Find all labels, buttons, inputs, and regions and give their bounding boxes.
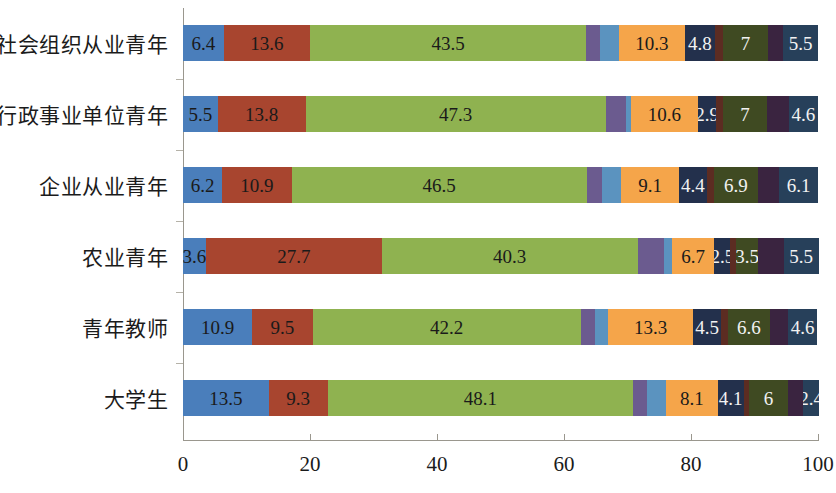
bar-segment: 4.6 [789,96,818,132]
bar-segment-value: 6.9 [724,176,748,195]
bar-segment-value: 6.2 [191,176,215,195]
bar-segment-value: 5.5 [789,247,813,266]
category-label: 企业从业青年 [39,170,168,200]
x-axis-tick [564,434,565,441]
bar-segment: 6.7 [672,238,715,274]
bar-segment [581,309,596,345]
bar-segment: 6.2 [183,167,222,203]
y-axis-tick [176,79,183,80]
y-axis-tick [176,292,183,293]
bar-segment [606,96,626,132]
bar-segment-value: 43.5 [431,34,464,53]
x-axis-tick-label: 40 [427,452,448,477]
bar-segment-value: 4.1 [719,389,743,408]
bar-segment [770,309,788,345]
x-axis-tick [437,434,438,441]
category-label: 社会组织从业青年 [0,28,168,58]
bar-segment: 9.1 [621,167,679,203]
bar-segment: 9.5 [252,309,312,345]
bar-segment-value: 40.3 [493,247,526,266]
bar-segment-value: 13.5 [209,389,242,408]
bar-segment [664,238,672,274]
bar-segment-value: 3.6 [183,247,206,266]
bar-segment: 10.9 [222,167,291,203]
plot-area: 6.413.643.510.34.875.55.513.847.310.62.9… [183,8,818,440]
bar-segment-value: 6.4 [191,34,215,53]
bar-segment-value: 3.5 [736,247,758,266]
bar-segment: 2.5 [714,238,730,274]
bar-segment: 6 [749,380,787,416]
bar-segment: 9.3 [269,380,328,416]
bar-segment: 5.5 [784,238,819,274]
bar-segment: 2.9 [698,96,716,132]
x-axis-tick-labels: 020406080100 [0,452,836,482]
x-axis-tick [183,434,184,441]
bar-segment: 6.6 [728,309,770,345]
bar-segment-value: 7 [741,34,751,53]
bar-segment-value: 46.5 [423,176,456,195]
bar-segment-value: 6 [764,389,774,408]
bar-segment-value: 47.3 [439,105,472,124]
bar-segment-value: 5.5 [189,105,213,124]
bar-segment [633,380,647,416]
bar-row: 5.513.847.310.62.974.6 [183,96,818,132]
bar-segment-value: 6.6 [737,318,761,337]
bar-segment [758,238,783,274]
bar-segment [707,167,714,203]
x-axis-tick-label: 80 [681,452,702,477]
bar-segment [767,96,789,132]
bar-segment-value: 2.9 [698,105,716,124]
bar-segment: 13.6 [224,25,310,61]
bar-segment: 43.5 [310,25,586,61]
stacked-bar-chart: 社会组织从业青年行政事业单位青年企业从业青年农业青年青年教师大学生 6.413.… [0,0,836,493]
bar-segment: 10.3 [619,25,684,61]
bar-segment [586,25,600,61]
bar-segment: 5.5 [183,96,218,132]
bar-segment-value: 10.9 [201,318,234,337]
x-axis-tick [818,434,819,441]
category-axis-labels: 社会组织从业青年行政事业单位青年企业从业青年农业青年青年教师大学生 [0,0,176,440]
bar-segment-value: 48.1 [464,389,497,408]
x-axis-tick-label: 100 [802,452,834,477]
bar-segment-value: 5.5 [789,34,813,53]
bar-segment [758,167,780,203]
bar-segment-value: 4.4 [681,176,705,195]
bar-segment [587,167,602,203]
bar-segment: 3.6 [183,238,206,274]
bar-row: 10.99.542.213.34.56.64.6 [183,309,818,345]
bar-row: 6.413.643.510.34.875.5 [183,25,818,61]
bar-segment: 4.8 [685,25,715,61]
bar-segment: 7 [723,25,767,61]
category-label: 大学生 [104,383,169,413]
bar-segment [600,25,619,61]
bar-segment-value: 10.6 [648,105,681,124]
category-label: 农业青年 [82,241,168,271]
bar-segment: 48.1 [328,380,633,416]
bar-segment: 10.9 [183,309,252,345]
y-axis-tick [176,150,183,151]
bar-segment: 6.4 [183,25,224,61]
bar-segment [595,309,608,345]
bar-segment-value: 4.8 [688,34,712,53]
bar-segment-value: 4.6 [792,105,816,124]
bar-segment: 10.6 [631,96,698,132]
bar-segment: 47.3 [306,96,606,132]
bar-segment: 4.6 [788,309,817,345]
x-axis-tick-label: 20 [300,452,321,477]
bar-row: 6.210.946.59.14.46.96.1 [183,167,818,203]
bar-segment-value: 9.5 [270,318,294,337]
bar-segment: 42.2 [313,309,581,345]
y-axis-tick [176,363,183,364]
bar-segment [638,238,665,274]
bar-segment: 46.5 [292,167,587,203]
x-axis-tick-label: 0 [178,452,189,477]
bar-segment-value: 13.3 [634,318,667,337]
x-axis-tick [310,434,311,441]
bar-segment-value: 13.8 [245,105,278,124]
bar-segment: 8.1 [666,380,717,416]
bar-segment: 6.9 [714,167,758,203]
bar-segment-value: 4.5 [695,318,719,337]
bar-segment: 2.4 [803,380,818,416]
bar-segment: 3.5 [736,238,758,274]
bar-segment-value: 27.7 [277,247,310,266]
